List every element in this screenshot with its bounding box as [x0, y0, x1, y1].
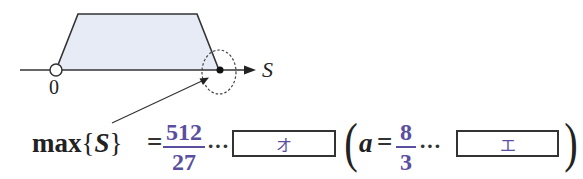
fraction-bar-2: [396, 146, 416, 148]
max-value-numerator: 512: [163, 119, 205, 145]
answer-box-e-label: エ: [500, 132, 516, 156]
paren-close: ): [564, 116, 577, 170]
param-value-numerator: 8: [396, 119, 416, 145]
answer-formula: max{S} = 512 27 ··· オ ( a = 8 3 ··· エ ): [0, 0, 583, 179]
answer-box-o[interactable]: オ: [232, 130, 336, 157]
brace-close: }: [110, 128, 123, 158]
answer-box-e[interactable]: エ: [456, 130, 559, 157]
variable-s: S: [94, 128, 109, 158]
ellipsis-2: ···: [419, 133, 441, 159]
max-value-denominator: 27: [163, 149, 205, 175]
paren-open: (: [344, 116, 357, 170]
ellipsis-1: ···: [207, 133, 229, 159]
brace-open: {: [82, 128, 95, 158]
max-expression: max{S}: [32, 128, 122, 159]
param-value-denominator: 3: [396, 149, 416, 175]
answer-box-o-label: オ: [276, 132, 292, 156]
fraction-bar: [163, 146, 205, 148]
equals-sign: =: [147, 127, 162, 158]
param-value-fraction: 8 3: [396, 119, 416, 175]
max-func: max: [32, 128, 82, 158]
param-variable-a: a: [359, 128, 373, 159]
equals-sign-2: =: [377, 127, 392, 158]
max-value-fraction: 512 27: [163, 119, 205, 175]
